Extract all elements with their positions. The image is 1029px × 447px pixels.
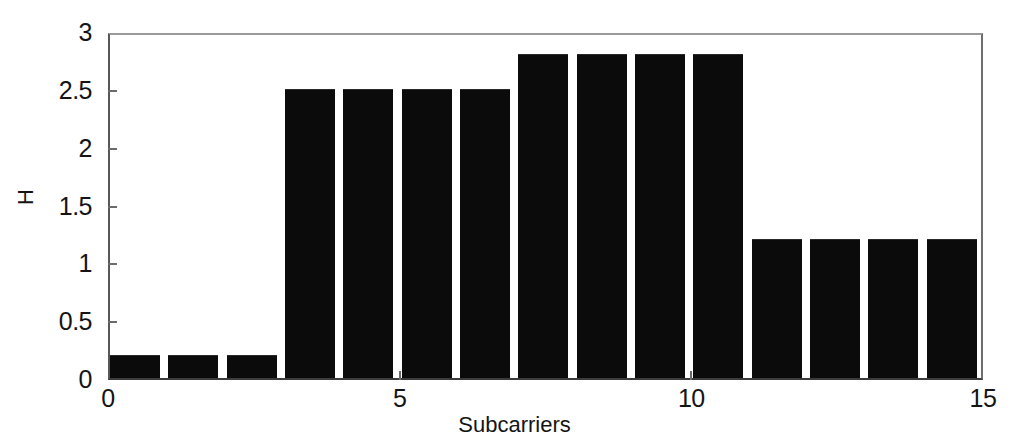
x-tick-label: 10 [651, 386, 731, 411]
bar [460, 89, 510, 378]
y-tick-mark [108, 263, 117, 265]
plot-area [108, 33, 983, 380]
x-tick-label: 5 [360, 386, 440, 411]
y-tick-label: 2 [0, 136, 92, 161]
bar-chart-figure: H Subcarriers 00.511.522.53051015 [0, 0, 1029, 447]
y-tick-label: 1 [0, 251, 92, 276]
y-tick-label: 1.5 [0, 194, 92, 219]
bar [693, 54, 743, 378]
bar [168, 355, 218, 378]
y-tick-label: 0.5 [0, 309, 92, 334]
bar [752, 239, 802, 378]
x-tick-label: 15 [943, 386, 1023, 411]
y-tick-mark [108, 206, 117, 208]
bar [402, 89, 452, 378]
y-tick-mark [108, 148, 117, 150]
x-tick-label: 0 [68, 386, 148, 411]
bar [577, 54, 627, 378]
bar [927, 239, 977, 378]
y-tick-mark [108, 321, 117, 323]
bars-layer [110, 35, 981, 378]
bar [810, 239, 860, 378]
bar [518, 54, 568, 378]
y-tick-label: 2.5 [0, 78, 92, 103]
x-tick-mark [399, 371, 401, 380]
bar [285, 89, 335, 378]
bar [343, 89, 393, 378]
bar [110, 355, 160, 378]
bar [868, 239, 918, 378]
bar [635, 54, 685, 378]
bar [227, 355, 277, 378]
x-axis-title: Subcarriers [0, 414, 1029, 436]
y-tick-mark [108, 90, 117, 92]
x-tick-mark [690, 371, 692, 380]
y-tick-label: 3 [0, 20, 92, 45]
